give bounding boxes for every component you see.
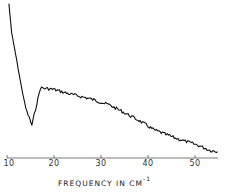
x-tick-label: 20 [49,159,60,168]
x-tick-label: 40 [143,159,154,168]
spectrum-trace [9,4,218,153]
x-axis-title: FREQUENCY IN CM-1 [58,176,151,188]
x-tick-label: 30 [96,159,107,168]
x-tick-label: 10 [4,159,15,168]
x-axis-title-text: FREQUENCY IN CM [58,179,143,188]
x-axis-title-superscript: -1 [143,175,151,182]
x-tick-label: 50 [190,159,201,168]
x-axis-ticks [7,155,195,158]
